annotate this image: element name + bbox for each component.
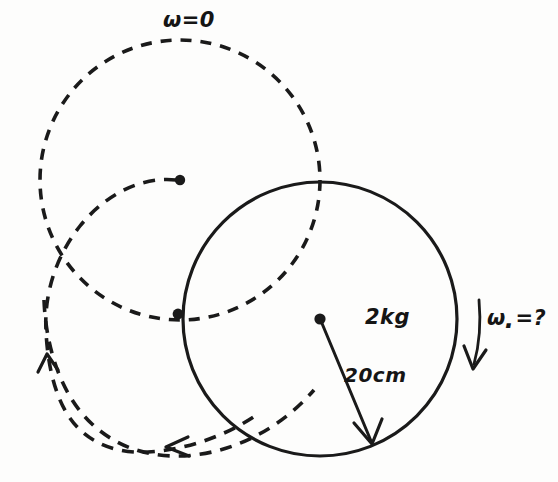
- omega-symbol: ω: [487, 306, 506, 330]
- label-disk-mass: 2kg: [365, 305, 410, 329]
- omega-subscript-dot: .: [505, 306, 515, 334]
- label-disk-radius: 20cm: [344, 363, 407, 387]
- rotation-arrow-line: [474, 300, 480, 364]
- final-center-dot: [314, 313, 325, 324]
- diagram-canvas: ω=0 2kg 20cm ω.=?: [0, 0, 558, 482]
- contact-point-dot: [173, 309, 184, 320]
- label-initial-angular-velocity: ω=0: [163, 8, 215, 32]
- lower-rolling-arc: [44, 300, 314, 456]
- initial-center-dot: [175, 175, 185, 185]
- label-final-angular-velocity: ω.=?: [487, 306, 546, 330]
- physics-diagram-svg: [0, 0, 558, 482]
- omega-question: =?: [515, 306, 546, 330]
